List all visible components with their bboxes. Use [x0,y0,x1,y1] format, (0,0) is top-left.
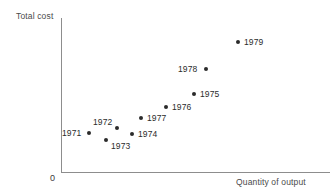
data-point [104,138,108,142]
data-point-label: 1971 [62,129,81,138]
data-point [236,40,240,44]
data-point-label: 1973 [111,142,130,151]
data-point [192,92,196,96]
scatter-chart: Total cost Quantity of output 0 19711972… [0,0,331,194]
origin-tick-label: 0 [50,173,55,183]
data-point [139,116,143,120]
data-point-label: 1976 [172,103,191,112]
data-point-label: 1979 [244,38,263,47]
data-point [115,126,119,130]
data-point [164,105,168,109]
x-axis-title: Quantity of output [236,177,306,187]
data-point [204,67,208,71]
x-axis-line [61,172,330,173]
y-axis-title: Total cost [16,11,53,21]
data-point-label: 1974 [138,130,157,139]
data-point-label: 1972 [93,118,112,127]
data-point [87,131,91,135]
data-point-label: 1975 [200,90,219,99]
y-axis-line [61,18,62,173]
data-point-label: 1977 [147,114,166,123]
data-point [130,132,134,136]
data-point-label: 1978 [178,65,197,74]
